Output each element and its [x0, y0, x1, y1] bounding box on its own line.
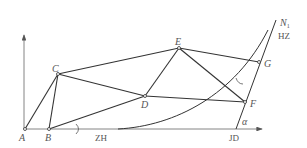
label-D: D [140, 99, 149, 110]
tangent-line [236, 20, 276, 129]
label-G: G [264, 58, 271, 69]
label-jd: JD [229, 133, 240, 143]
label-hz: HZ [278, 31, 290, 41]
traverse-edges [25, 48, 259, 129]
traverse-diagram: A B C D E F G ZH JD HZ N1 α [0, 0, 307, 148]
point-markers [24, 47, 261, 131]
transition-curve [118, 30, 268, 129]
label-E: E [174, 36, 181, 47]
label-C: C [52, 63, 59, 74]
label-A: A [18, 132, 26, 143]
label-n1: N1 [279, 17, 290, 29]
label-zh: ZH [95, 133, 107, 143]
label-F: F [249, 98, 257, 109]
label-alpha: α [242, 116, 248, 127]
label-B: B [45, 132, 51, 143]
angle-arc-curve [236, 78, 243, 84]
